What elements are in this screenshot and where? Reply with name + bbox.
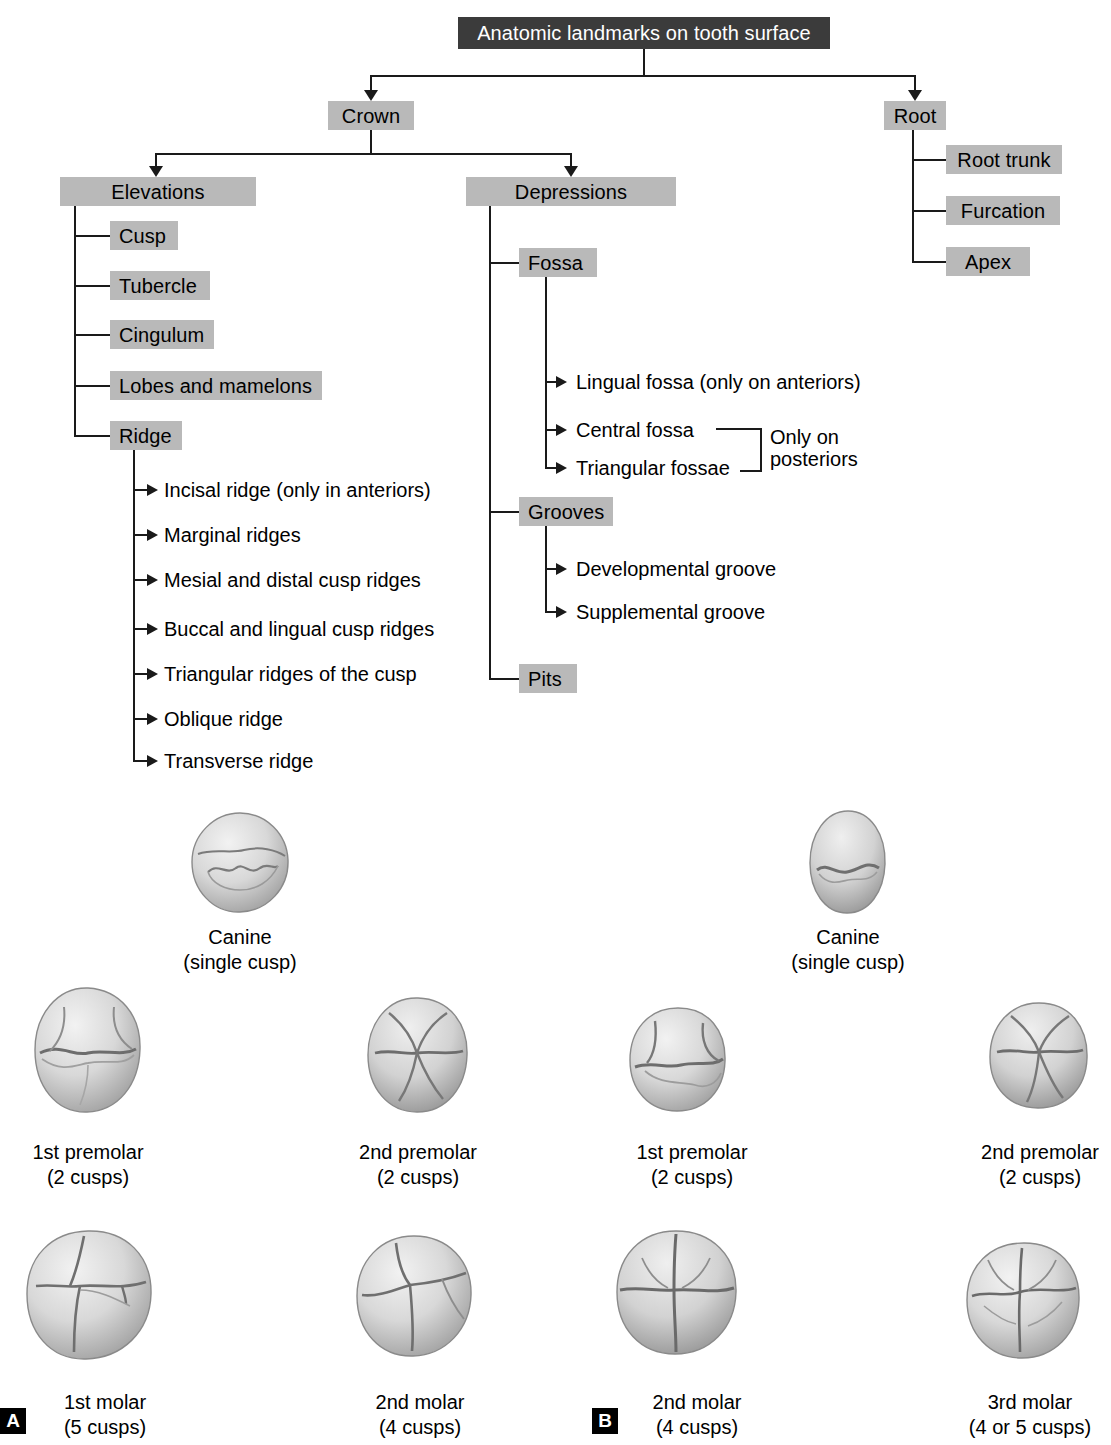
bracket-vertical	[760, 428, 762, 472]
arrow-ridge-item-0-icon	[147, 484, 158, 496]
arrow-to-depressions-icon	[564, 166, 578, 177]
caption-canine-lower-detail: (single cusp)	[791, 951, 904, 973]
leaf-incisal-ridge: Incisal ridge (only in anteriors)	[164, 480, 431, 500]
caption-molar-3-lower: 3rd molar(4 or 5 cusps)	[940, 1390, 1111, 1440]
caption-premolar-1-upper: 1st premolar(2 cusps)	[8, 1140, 168, 1190]
node-grooves: Grooves	[519, 497, 613, 526]
root-box: Anatomic landmarks on tooth surface	[458, 17, 830, 49]
arrow-fossa-item-1-icon	[556, 424, 567, 436]
node-cusp-label: Cusp	[119, 226, 166, 246]
panel-label-a: A	[0, 1408, 26, 1434]
caption-premolar-2-lower-name: 2nd premolar	[981, 1141, 1099, 1163]
node-cingulum-label: Cingulum	[119, 325, 204, 345]
node-pits-label: Pits	[528, 669, 562, 689]
arrow-to-crown-icon	[364, 90, 378, 101]
caption-molar-3-lower-detail: (4 or 5 cusps)	[969, 1416, 1091, 1438]
leaf-developmental-groove: Developmental groove	[576, 559, 776, 579]
node-ridge-label: Ridge	[119, 426, 172, 446]
arrow-ridge-item-2-icon	[147, 574, 158, 586]
leaf-central-fossa: Central fossa	[576, 420, 694, 440]
node-elevations: Elevations	[60, 177, 256, 206]
caption-molar-2-upper-detail: (4 cusps)	[379, 1416, 461, 1438]
node-depressions: Depressions	[466, 177, 676, 206]
node-cusp: Cusp	[110, 221, 178, 250]
leaf-triangular-fossae: Triangular fossae	[576, 458, 730, 478]
connector-crown-bus	[155, 153, 572, 155]
node-root-trunk: Root trunk	[946, 145, 1062, 174]
connector-to-elevations	[155, 153, 157, 167]
leaf-supplemental-groove: Supplemental groove	[576, 602, 765, 622]
tooth-figure-molar-1-upper	[22, 1228, 158, 1363]
caption-molar-2-lower-name: 2nd molar	[653, 1391, 742, 1413]
caption-molar-2-lower: 2nd molar(4 cusps)	[612, 1390, 782, 1440]
connector-crown-stem	[370, 130, 372, 155]
tooth-figure-premolar-2-upper	[363, 995, 473, 1115]
connector-tubercle-tee	[74, 285, 112, 287]
connector-cusp-tee	[74, 235, 112, 237]
bracket-note-only-on-posteriors: Only on posteriors	[770, 426, 858, 470]
caption-canine-lower: Canine(single cusp)	[768, 925, 928, 975]
caption-molar-2-upper-name: 2nd molar	[376, 1391, 465, 1413]
node-cingulum: Cingulum	[110, 320, 214, 349]
leaf-marginal-ridges: Marginal ridges	[164, 525, 301, 545]
connector-ridge-tee	[74, 435, 112, 437]
caption-molar-1-upper: 1st molar(5 cusps)	[20, 1390, 190, 1440]
arrow-ridge-item-5-icon	[147, 713, 158, 725]
arrow-fossa-item-2-icon	[556, 462, 567, 474]
caption-canine-lower-name: Canine	[816, 926, 879, 948]
node-apex-label: Apex	[965, 252, 1011, 272]
caption-canine-upper-name: Canine	[208, 926, 271, 948]
node-fossa: Fossa	[519, 248, 597, 277]
tooth-figure-molar-3-lower	[962, 1240, 1086, 1362]
node-elevations-label: Elevations	[111, 182, 204, 202]
node-grooves-label: Grooves	[528, 502, 604, 522]
arrow-fossa-item-0-icon	[556, 376, 567, 388]
connector-fossa-spine	[545, 277, 547, 467]
caption-premolar-2-upper-name: 2nd premolar	[359, 1141, 477, 1163]
caption-premolar-2-upper: 2nd premolar(2 cusps)	[338, 1140, 498, 1190]
caption-premolar-2-upper-detail: (2 cusps)	[377, 1166, 459, 1188]
caption-premolar-1-lower-detail: (2 cusps)	[651, 1166, 733, 1188]
node-furcation: Furcation	[946, 196, 1060, 225]
node-lobes-and-mamelons-label: Lobes and mamelons	[119, 376, 312, 396]
tooth-figure-premolar-1-lower	[625, 1005, 731, 1115]
node-tubercle-label: Tubercle	[119, 276, 197, 296]
node-fossa-label: Fossa	[528, 253, 583, 273]
caption-molar-1-upper-name: 1st molar	[64, 1391, 146, 1413]
connector-to-crown	[370, 75, 372, 91]
node-tubercle: Tubercle	[110, 271, 210, 300]
leaf-mesial-distal-cusp-ridges: Mesial and distal cusp ridges	[164, 570, 421, 590]
node-root: Root	[884, 101, 946, 130]
caption-molar-3-lower-name: 3rd molar	[988, 1391, 1072, 1413]
connector-to-root	[914, 75, 916, 91]
caption-canine-upper-detail: (single cusp)	[183, 951, 296, 973]
caption-premolar-2-lower: 2nd premolar(2 cusps)	[960, 1140, 1111, 1190]
arrow-to-root-icon	[908, 90, 922, 101]
caption-premolar-1-upper-detail: (2 cusps)	[47, 1166, 129, 1188]
node-pits: Pits	[519, 664, 577, 693]
tooth-figure-molar-2-lower	[612, 1228, 742, 1358]
connector-depressions-spine	[489, 206, 491, 680]
connector-root-trunk-tee	[912, 159, 948, 161]
bracket-top-arm	[716, 428, 762, 430]
connector-root-spine	[912, 130, 914, 263]
root-box-label: Anatomic landmarks on tooth surface	[477, 23, 811, 43]
node-apex: Apex	[946, 247, 1030, 276]
leaf-lingual-fossa: Lingual fossa (only on anteriors)	[576, 372, 861, 392]
caption-premolar-1-lower: 1st premolar(2 cusps)	[612, 1140, 772, 1190]
arrow-to-elevations-icon	[149, 166, 163, 177]
panel-label-b: B	[592, 1408, 618, 1434]
caption-premolar-1-lower-name: 1st premolar	[636, 1141, 747, 1163]
caption-premolar-1-upper-name: 1st premolar	[32, 1141, 143, 1163]
connector-grooves-tee	[489, 511, 521, 513]
connector-furcation-tee	[912, 210, 948, 212]
bracket-bottom-arm	[740, 470, 762, 472]
tooth-figure-molar-2-upper	[352, 1233, 478, 1361]
leaf-oblique-ridge: Oblique ridge	[164, 709, 283, 729]
node-furcation-label: Furcation	[961, 201, 1045, 221]
node-root-label: Root	[894, 106, 937, 126]
tooth-figure-canine-lower	[805, 808, 891, 916]
connector-cingulum-tee	[74, 334, 112, 336]
connector-root-bus	[370, 75, 915, 77]
caption-molar-2-upper: 2nd molar(4 cusps)	[335, 1390, 505, 1440]
